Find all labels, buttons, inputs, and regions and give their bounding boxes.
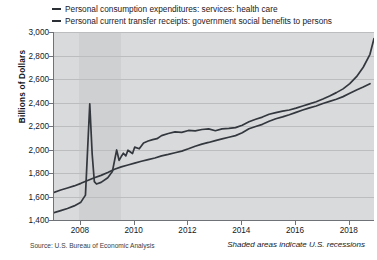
x-tick-mark	[80, 221, 81, 225]
y-tick-label: 2,200	[5, 122, 49, 131]
x-tick-mark	[349, 221, 350, 225]
legend-item-health-care: Personal consumption expenditures: servi…	[52, 3, 372, 14]
plot-area	[53, 32, 374, 220]
y-tick-label: 2,600	[5, 75, 49, 84]
x-tick-label: 2008	[60, 226, 100, 235]
chart-legend: Personal consumption expenditures: servi…	[52, 3, 372, 27]
series-line-transfer-receipts	[54, 39, 374, 213]
legend-item-transfer-receipts: Personal current transfer receipts: gove…	[52, 15, 372, 26]
y-axis-ticks: 1,4001,6001,8002,0002,2002,4002,6002,800…	[0, 32, 49, 220]
x-tick-label: 2016	[275, 226, 315, 235]
x-tick-mark	[134, 221, 135, 225]
y-tick-label: 3,000	[5, 28, 49, 37]
y-tick-label: 2,800	[5, 51, 49, 60]
legend-line-swatch-icon	[52, 20, 61, 22]
y-tick-label: 2,400	[5, 98, 49, 107]
y-tick-label: 1,800	[5, 169, 49, 178]
x-tick-mark	[187, 221, 188, 225]
plot-inner	[54, 32, 374, 220]
y-tick-label: 2,000	[5, 145, 49, 154]
x-axis-line	[53, 220, 374, 221]
legend-label-transfer-receipts: Personal current transfer receipts: gove…	[65, 16, 332, 26]
x-tick-label: 2018	[329, 226, 369, 235]
legend-line-swatch-icon	[52, 8, 61, 10]
x-tick-label: 2010	[114, 226, 154, 235]
y-tick-label: 1,400	[5, 216, 49, 225]
x-tick-mark	[241, 221, 242, 225]
legend-label-health-care: Personal consumption expenditures: servi…	[65, 4, 278, 14]
x-axis: 200820102012201420162018	[53, 220, 374, 238]
y-tick-label: 1,600	[5, 192, 49, 201]
chart-page: Personal consumption expenditures: servi…	[0, 0, 377, 260]
x-tick-label: 2012	[167, 226, 207, 235]
recession-note: Shaded areas indicate U.S. recessions	[227, 240, 365, 249]
x-tick-label: 2014	[221, 226, 261, 235]
series-canvas	[54, 32, 374, 220]
x-tick-mark	[295, 221, 296, 225]
source-note: Source: U.S. Bureau of Economic Analysis	[30, 242, 155, 249]
